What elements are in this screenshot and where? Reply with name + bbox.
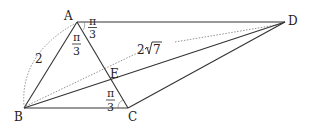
angle-bac-num: π — [73, 31, 80, 44]
segment-ab — [24, 22, 77, 108]
geometry-diagram: A B C D E 2 2 7 π 3 π 3 π 3 — [0, 0, 310, 128]
point-label-a: A — [63, 9, 73, 23]
angle-mark-c — [118, 100, 123, 108]
angle-dac-den: 3 — [89, 28, 96, 41]
guide-bd — [26, 47, 150, 106]
angle-bca-den: 3 — [107, 101, 114, 114]
segment-bd — [24, 22, 285, 108]
angle-bac-den: 3 — [73, 45, 80, 58]
point-label-c: C — [128, 110, 137, 124]
point-label-d: D — [288, 14, 298, 28]
point-label-e: E — [110, 67, 119, 81]
angle-mark-a — [82, 22, 85, 31]
length-label-bd-coef: 2 — [137, 43, 145, 57]
angle-bca-num: π — [107, 87, 114, 100]
segment-ac — [77, 22, 128, 108]
point-label-b: B — [14, 110, 23, 124]
length-label-ab: 2 — [35, 52, 43, 66]
segment-cd — [128, 22, 285, 108]
angle-dac-num: π — [89, 15, 96, 28]
length-label-bd-rad: 7 — [153, 43, 161, 57]
